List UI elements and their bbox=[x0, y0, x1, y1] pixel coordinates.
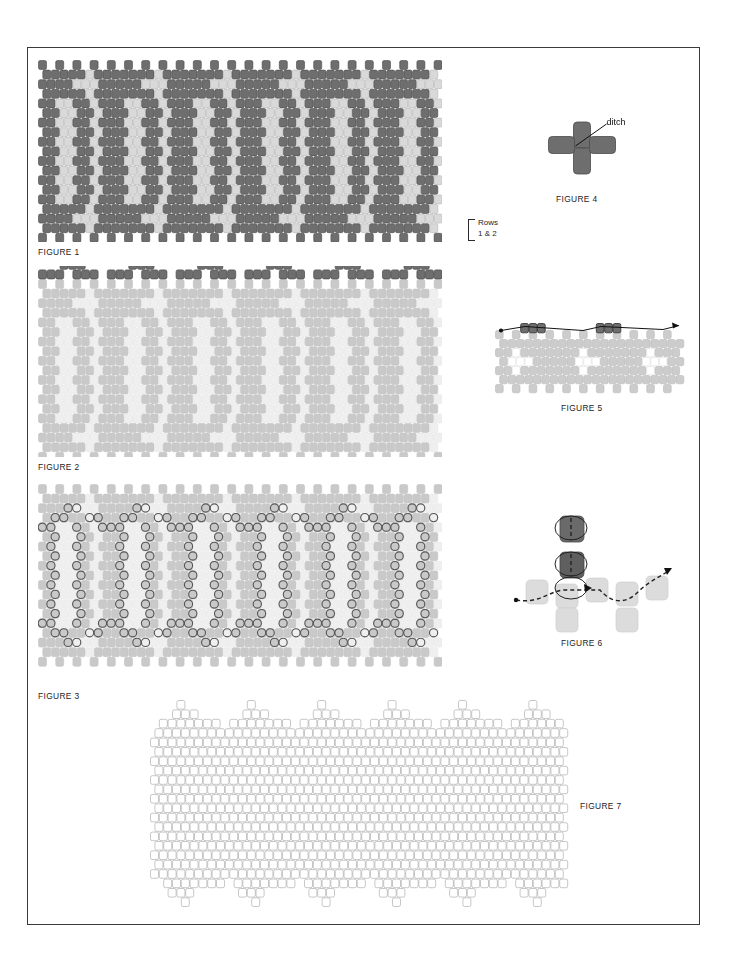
figure-1-canvas bbox=[38, 60, 442, 242]
page-canvas: FIGURE 1 Rows 1 & 2 FIGURE 2 FIGURE 3 FI… bbox=[0, 0, 734, 967]
figure-1-chart bbox=[38, 60, 442, 242]
figure-6-label: FIGURE 6 bbox=[561, 638, 602, 648]
figure-7-canvas bbox=[150, 700, 570, 915]
figure-5-label: FIGURE 5 bbox=[561, 403, 602, 413]
figure-5-canvas bbox=[495, 316, 685, 398]
figure-7-blank-grid bbox=[150, 700, 570, 915]
figure-4-canvas bbox=[536, 118, 646, 190]
figure-5-thread-row-detail bbox=[495, 316, 685, 398]
figure-3-chart bbox=[38, 480, 442, 686]
rows-bracket bbox=[468, 219, 475, 241]
figure-4-ditch-detail bbox=[536, 118, 646, 190]
figure-2-label: FIGURE 2 bbox=[38, 462, 79, 472]
figure-3-canvas bbox=[38, 480, 442, 686]
figure-6-canvas bbox=[508, 508, 683, 633]
rows-annotation: Rows 1 & 2 bbox=[466, 218, 512, 244]
figure-7-label: FIGURE 7 bbox=[580, 801, 621, 811]
figure-6-thread-path-detail bbox=[508, 508, 683, 633]
figure-2-canvas bbox=[38, 266, 442, 457]
figure-2-chart bbox=[38, 266, 442, 457]
rows-annotation-text: Rows 1 & 2 bbox=[478, 218, 498, 239]
figure-3-label: FIGURE 3 bbox=[38, 691, 79, 701]
figure-1-label: FIGURE 1 bbox=[38, 247, 79, 257]
figure-4-label: FIGURE 4 bbox=[556, 194, 597, 204]
